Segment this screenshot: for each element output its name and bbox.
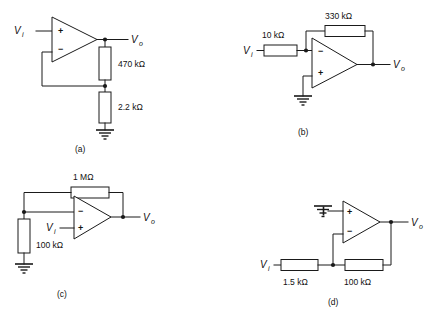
panel-b-rin-label: 10 kΩ: [262, 30, 284, 40]
panel-a-r2-body: [99, 92, 111, 123]
panel-a-opamp-body: [52, 17, 97, 62]
panel-c-minus-pin: −: [78, 206, 83, 216]
panel-b-output-label: V o: [393, 59, 405, 72]
panel-d: + − V o V i 1.5 kΩ: [260, 201, 423, 307]
panel-a-vo-sub: o: [139, 40, 143, 47]
panel-c-rg-body: [18, 219, 30, 253]
panel-c-vi-text: V: [46, 222, 54, 233]
panel-b-vo-text: V: [393, 59, 401, 70]
panel-c-vo-text: V: [143, 212, 151, 223]
panel-a-output-label: V o: [131, 34, 143, 47]
panel-d-rf-label: 100 kΩ: [344, 277, 371, 287]
panel-b-plus-ground-wire: [303, 76, 312, 96]
panel-d-rf-right-lead: [383, 222, 391, 265]
panel-a-feedback-wire: [42, 52, 105, 86]
panel-c-plus-pin: +: [78, 223, 83, 233]
circuit-figure: V i + − V o 470 kΩ 2.2 kΩ: [0, 0, 430, 324]
panel-c-ground-symbol: [15, 253, 33, 273]
panel-a-vi-sub: i: [22, 31, 24, 38]
panel-d-rin-label: 1.5 kΩ: [283, 277, 308, 287]
panel-d-caption: (d): [328, 297, 339, 307]
panel-d-vo-sub: o: [419, 223, 423, 230]
panel-a-r1-label: 470 kΩ: [118, 59, 145, 69]
panel-c-rf-body: [71, 187, 109, 198]
panel-c-input-label: V i: [46, 222, 56, 235]
panel-c-vi-sub: i: [54, 228, 56, 235]
panel-a-r1-body: [99, 47, 111, 80]
panel-b-output-node: [371, 62, 375, 66]
panel-b-rf-right-lead: [365, 31, 373, 65]
panel-d-vi-text: V: [260, 259, 268, 270]
panel-b-rf-body: [325, 26, 365, 37]
panel-c-output-label: V o: [143, 212, 155, 225]
panel-c-rf-right-lead: [109, 193, 123, 218]
panel-d-minus-pin: −: [347, 226, 352, 236]
panel-b-rf-label: 330 kΩ: [325, 11, 352, 21]
panel-b-minus-pin: −: [318, 46, 323, 56]
panel-b-vi-text: V: [243, 45, 251, 56]
panel-a-ground-symbol: [96, 123, 114, 139]
panel-c-rf-left-lead: [24, 193, 71, 213]
panel-d-rf-body: [345, 260, 383, 271]
panel-d-inverting-wire: [333, 234, 343, 265]
panel-a: V i + − V o 470 kΩ 2.2 kΩ: [14, 17, 145, 154]
panel-c-rg-label: 100 kΩ: [36, 240, 63, 250]
panel-b-vi-sub: i: [251, 51, 253, 58]
panel-b-plus-pin: +: [318, 68, 323, 78]
panel-b: V i 10 kΩ 330 kΩ − + V o: [243, 11, 405, 137]
panel-c-caption: (c): [57, 289, 67, 299]
panel-d-rin-body: [281, 260, 318, 271]
panel-a-plus-pin: +: [58, 26, 63, 36]
panel-a-minus-pin: −: [58, 44, 63, 54]
panel-c: 1 MΩ − + V i V o 100 kΩ: [15, 172, 155, 299]
panel-a-r2-label: 2.2 kΩ: [118, 102, 143, 112]
panel-c-output-node: [121, 215, 125, 219]
panel-a-input-label: V i: [14, 25, 24, 38]
panel-c-vo-sub: o: [151, 218, 155, 225]
panel-d-vo-text: V: [411, 217, 419, 228]
panel-b-vo-sub: o: [401, 65, 405, 72]
panel-b-input-label: V i: [243, 45, 253, 58]
panel-d-plus-pin: +: [347, 207, 352, 217]
panel-b-caption: (b): [298, 127, 309, 137]
panel-d-vi-sub: i: [268, 265, 270, 272]
panel-b-rin-body: [264, 45, 297, 56]
panel-a-vi-text: V: [14, 25, 22, 36]
panel-b-ground-symbol: [294, 96, 312, 105]
panel-a-caption: (a): [75, 144, 86, 154]
panel-c-rf-label: 1 MΩ: [73, 172, 94, 182]
panel-d-output-label: V o: [411, 217, 423, 230]
panel-a-vo-text: V: [131, 34, 139, 45]
panel-d-input-label: V i: [260, 259, 270, 272]
